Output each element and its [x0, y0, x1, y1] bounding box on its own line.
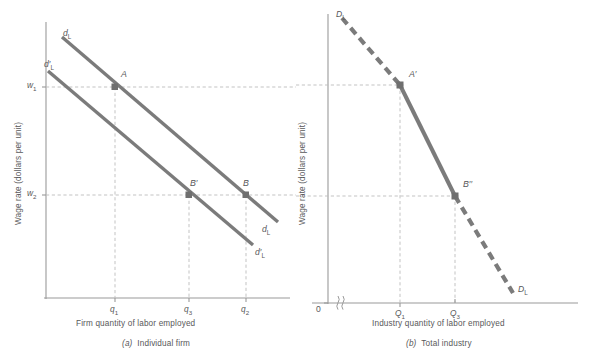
point-marker-B [243, 192, 250, 199]
point-marker-B-prime [186, 192, 193, 199]
panel-a-ytick-w2: w2 [27, 189, 37, 200]
panel-a-axes [44, 22, 290, 299]
panel-b-axes [312, 14, 578, 304]
panel-a-x-axis-title: Firm quantity of labor employed [76, 320, 195, 328]
point-label-A-prime: A′ [409, 70, 417, 79]
panel-a-y-ticks [42, 87, 46, 195]
panel-a-xtick-q3: q3 [184, 305, 192, 316]
panel-a-x-ticks [115, 298, 246, 302]
panel-b-y-axis-title: Wage rate (dollars per unit) [298, 122, 307, 225]
panel-a-ytick-w1: w1 [27, 81, 37, 92]
figure-svg [0, 0, 592, 364]
figure-canvas: Wage rate (dollars per unit) w1 w2 q1 q3… [0, 0, 592, 364]
point-marker-A-prime [397, 82, 404, 89]
curve-label-dL-end: dL [262, 225, 270, 236]
point-label-B: B [243, 179, 249, 188]
curve-label-DL-bottom: DL [518, 285, 528, 296]
curve-DL-industry-solid [400, 85, 455, 196]
curve-label-dL-prime-top: d′L [44, 60, 54, 71]
curve-DL-industry-upper-dashed [342, 18, 400, 85]
panel-a-xtick-q1: q1 [110, 305, 118, 316]
curve-label-DL-top: DL [336, 10, 346, 21]
curve-DL-industry-lower-dashed [455, 196, 513, 293]
panel-a-guides [46, 87, 296, 298]
curve-label-dL-prime-end: d′L [255, 248, 265, 259]
point-label-B-double-prime: B′′ [463, 180, 472, 189]
panel-b-guides [296, 85, 459, 303]
curve-dL-prime-firm [48, 71, 253, 245]
curve-label-dL-top: dL [63, 29, 71, 40]
panel-a-xtick-q2: q2 [241, 305, 249, 316]
point-marker-B-double-prime [452, 193, 459, 200]
panel-b-caption: (b) Total industry [406, 340, 472, 348]
point-label-A: A [121, 70, 127, 79]
point-label-B-prime: B′ [190, 179, 198, 188]
panel-b-x-axis-title: Industry quantity of labor employed [372, 320, 505, 328]
panel-b-origin-label: 0 [316, 305, 321, 314]
panel-a-caption: (a) Individual firm [122, 340, 190, 348]
point-marker-A [112, 84, 119, 91]
panel-a-y-axis-title: Wage rate (dollars per unit) [14, 122, 23, 225]
